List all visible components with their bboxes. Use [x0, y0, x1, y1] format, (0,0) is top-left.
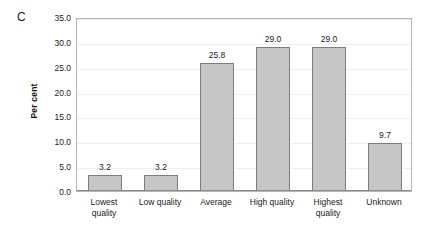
chart-figure: C Per cent 0.05.010.015.020.025.030.035.…	[0, 0, 433, 239]
bar[interactable]	[312, 47, 346, 191]
x-tick-label-line: Unknown	[356, 197, 412, 208]
y-tick-label: 30.0	[36, 38, 71, 47]
bar-slot: 25.8	[189, 19, 245, 191]
bar-value-label: 25.8	[209, 51, 226, 60]
y-tick-label: 25.0	[36, 63, 71, 72]
bar-slot: 29.0	[245, 19, 301, 191]
bar-slot: 3.2	[133, 19, 189, 191]
x-tick-label: High quality	[244, 197, 300, 208]
bar-slot: 3.2	[77, 19, 133, 191]
x-axis-tick-labels: LowestqualityLow qualityAverageHigh qual…	[76, 197, 412, 235]
bar-value-label: 3.2	[155, 163, 167, 172]
bar[interactable]	[200, 63, 234, 191]
bar-value-label: 29.0	[321, 35, 338, 44]
y-tick-label: 15.0	[36, 113, 71, 122]
bar-slot: 9.7	[357, 19, 413, 191]
x-tick-label: Highestquality	[300, 197, 356, 219]
x-tick-label: Average	[188, 197, 244, 208]
x-tick-label-line: Lowest	[76, 197, 132, 208]
bar[interactable]	[88, 175, 122, 191]
x-tick-label-line: quality	[76, 208, 132, 219]
x-axis-line	[77, 190, 411, 191]
x-tick-label-line: Highest	[300, 197, 356, 208]
y-tick-label: 20.0	[36, 88, 71, 97]
bar[interactable]	[368, 143, 402, 191]
bar[interactable]	[144, 175, 178, 191]
y-axis-tick-labels: 0.05.010.015.020.025.030.035.0	[36, 14, 71, 196]
x-tick-label-line: Average	[188, 197, 244, 208]
x-tick-label-line: High quality	[244, 197, 300, 208]
y-tick-label: 10.0	[36, 138, 71, 147]
y-tick-label: 35.0	[36, 14, 71, 23]
y-tick-label: 5.0	[36, 163, 71, 172]
x-tick-label-line: Low quality	[132, 197, 188, 208]
plot-area: 3.23.225.829.029.09.7	[76, 18, 412, 192]
bar-value-label: 3.2	[99, 163, 111, 172]
bar-slot: 29.0	[301, 19, 357, 191]
bar-value-label: 29.0	[265, 35, 282, 44]
x-tick-label: Low quality	[132, 197, 188, 208]
x-tick-label-line: quality	[300, 208, 356, 219]
bar-series: 3.23.225.829.029.09.7	[77, 19, 411, 191]
panel-letter-label: C	[17, 10, 26, 24]
bar-value-label: 9.7	[379, 131, 391, 140]
bar[interactable]	[256, 47, 290, 191]
x-tick-label: Unknown	[356, 197, 412, 208]
x-tick-label: Lowestquality	[76, 197, 132, 219]
y-tick-label: 0.0	[36, 188, 71, 197]
